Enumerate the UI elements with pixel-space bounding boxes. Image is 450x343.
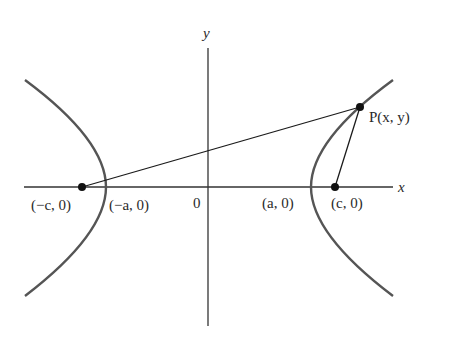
line-left-focus-to-p (82, 107, 360, 187)
y-axis-label: y (201, 25, 210, 41)
hyperbola-diagram: y x 0 (−c, 0) (−a, 0) (a, 0) (c, 0) P(x,… (0, 0, 450, 343)
left-focus-dot (78, 183, 86, 191)
point-p-label: P(x, y) (369, 109, 410, 126)
origin-label: 0 (193, 195, 201, 211)
x-axis-label: x (397, 179, 405, 195)
left-focus-label: (−c, 0) (31, 197, 71, 214)
left-branch (25, 80, 106, 296)
left-vertex-label: (−a, 0) (109, 197, 149, 214)
right-vertex-label: (a, 0) (262, 195, 294, 212)
right-focus-dot (331, 183, 339, 191)
point-p-dot (356, 103, 364, 111)
right-focus-label: (c, 0) (331, 195, 363, 212)
